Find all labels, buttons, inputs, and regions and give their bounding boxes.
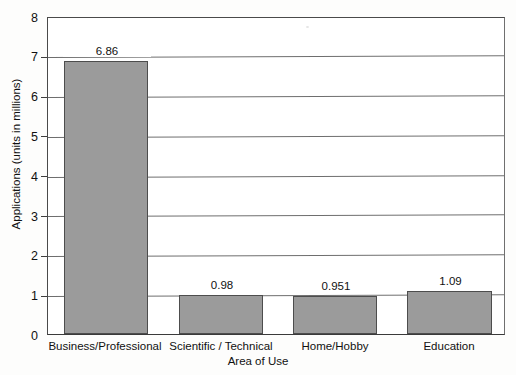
bar-value-scientific-technical: 0.98 xyxy=(178,279,266,291)
bar-value-home-hobby: 0.951 xyxy=(292,280,380,292)
x-axis-title: Area of Use xyxy=(0,355,516,367)
y-tick-label-0: 0 xyxy=(14,329,38,343)
x-tick-label-scientific-technical: Scientific / Technical xyxy=(155,340,287,352)
bar-scientific-technical xyxy=(179,295,263,334)
bar-business-professional xyxy=(64,61,148,334)
bar-chart: 8 7 6 5 4 3 2 1 0 Applications (units in… xyxy=(0,0,516,375)
x-tick-label-home-hobby: Home/Hobby xyxy=(269,340,401,352)
plot-area xyxy=(47,17,505,335)
scan-artifact xyxy=(306,26,309,28)
bar-value-business-professional: 6.86 xyxy=(63,45,151,57)
x-tick-label-business-professional: Business/Professional xyxy=(39,340,171,352)
bar-education xyxy=(407,291,492,334)
bar-home-hobby xyxy=(293,296,377,334)
bar-value-education: 1.09 xyxy=(406,275,495,287)
x-tick-label-education: Education xyxy=(383,340,515,352)
y-axis-title: Applications (units in millions) xyxy=(10,14,22,294)
